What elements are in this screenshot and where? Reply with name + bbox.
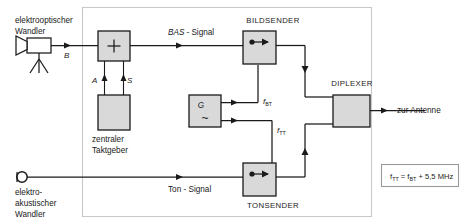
video-camera-tripod-icon [16, 36, 51, 73]
arrow-tonsender-up [302, 148, 309, 155]
microphone-label-line3: Wandler [15, 210, 45, 219]
arrow-bildsender-down [302, 66, 309, 73]
ton-signal-label: Ton - Signal [168, 185, 211, 194]
label-f-bt-sub: BT [265, 101, 273, 107]
arrow-signal-a [102, 74, 108, 81]
signal-label-a: A [91, 76, 97, 85]
camera-label-line2: Wandler [15, 27, 45, 36]
bas-signal-label-rest: - Signal [186, 28, 214, 37]
formula-tail: + 5,5 MHz [416, 172, 453, 181]
generator-symbol-g: G [198, 101, 205, 110]
arrow-signal-s [121, 74, 127, 81]
generator-wave-icon: ~ [201, 111, 208, 125]
label-f-tt: fTT [277, 126, 287, 136]
tonsender-label: TONSENDER [247, 201, 299, 210]
arrow-bas-signal [176, 43, 183, 49]
arrow-ton-signal [176, 174, 183, 180]
arrow-antenna-out [381, 108, 388, 114]
bas-signal-label-italic: BAS [168, 28, 185, 37]
antenna-output-label: zur Antenne [397, 106, 441, 115]
frequency-formula: fTT = fBT + 5,5 MHz [390, 172, 454, 182]
tonsender-block [243, 163, 276, 196]
arrow-camera-out [64, 43, 71, 49]
bas-signal-label: BAS- Signal [168, 28, 214, 37]
diagram-canvas: elektrooptischer Wandler B BAS- Signal z… [0, 0, 476, 224]
diplexer-block [333, 95, 370, 127]
microphone-label-line1: elektro- [15, 188, 43, 197]
arrow-fbt [231, 100, 238, 106]
label-f-bt: fBT [263, 97, 273, 107]
signal-label-b: B [64, 51, 70, 60]
diplexer-label: DIPLEXER [331, 79, 372, 88]
bildsender-label: BILDSENDER [246, 16, 299, 25]
microphone-icon [17, 172, 27, 182]
microphone-label-line2: akustischer [15, 199, 57, 208]
signal-label-s: S [127, 76, 133, 85]
arrow-ftt [231, 118, 238, 124]
zentraler-taktgeber-block [98, 95, 130, 130]
label-f-tt-sub: TT [279, 130, 286, 136]
taktgeber-label-line1: zentraler [92, 135, 124, 144]
taktgeber-label-line2: Taktgeber [92, 146, 128, 155]
bildsender-block [243, 31, 276, 64]
camera-label-line1: elektrooptischer [15, 16, 73, 25]
